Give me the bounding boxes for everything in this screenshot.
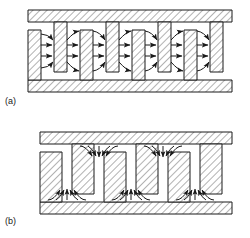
panel-a-top-finger bbox=[210, 22, 223, 72]
panel-a-bottom-finger bbox=[28, 30, 41, 80]
panel-a-svg bbox=[0, 0, 250, 120]
panel-a-bottom-bar bbox=[28, 80, 232, 92]
panel-b-electrode-body bbox=[40, 132, 232, 214]
panel-a-electrode-body bbox=[28, 10, 232, 92]
field-arrow-curved bbox=[80, 146, 92, 156]
field-arrow-curved bbox=[166, 146, 174, 156]
field-arrow-curved bbox=[112, 190, 124, 200]
field-arrow-curved bbox=[120, 190, 128, 200]
figure-container: (a) bbox=[0, 0, 250, 238]
panel-a-bottom-finger bbox=[184, 30, 197, 80]
field-arrow-curved bbox=[202, 190, 214, 200]
panel-a-bottom-finger bbox=[80, 30, 93, 80]
panel-a-top-finger bbox=[54, 22, 67, 72]
field-line-curved bbox=[145, 62, 157, 71]
field-arrow-curved bbox=[176, 190, 188, 200]
panel-a-label: (a) bbox=[5, 96, 16, 106]
panel-a-top-bar bbox=[28, 10, 232, 22]
field-arrow-curved bbox=[198, 190, 206, 200]
arrow-fan-bottom bbox=[112, 189, 150, 200]
panel-b-bottom-bar bbox=[40, 202, 232, 214]
panel-b-top-bar bbox=[40, 132, 232, 144]
arrow-fan-top bbox=[144, 146, 182, 157]
field-line-curved bbox=[93, 31, 105, 40]
field-line-curved bbox=[93, 62, 105, 71]
field-arrow-curved bbox=[152, 146, 160, 156]
field-arrow-curved bbox=[184, 190, 192, 200]
field-arrow-curved bbox=[102, 146, 110, 156]
panel-b-column bbox=[104, 152, 126, 202]
field-arrow-curved bbox=[48, 190, 60, 200]
arrow-fan-top bbox=[80, 146, 118, 157]
panel-b-column bbox=[40, 152, 62, 202]
field-line-curved bbox=[119, 31, 131, 40]
arrow-fan-bottom bbox=[176, 189, 214, 200]
field-arrow-curved bbox=[70, 190, 78, 200]
panel-b-field-arrows bbox=[48, 146, 214, 200]
arrow-fan-bottom bbox=[48, 189, 86, 200]
panel-b-column bbox=[168, 152, 190, 202]
panel-a-diagram bbox=[0, 0, 250, 120]
field-line-curved bbox=[67, 31, 79, 40]
field-line-curved bbox=[41, 62, 53, 68]
field-arrow-curved bbox=[134, 190, 142, 200]
field-line-curved bbox=[119, 62, 131, 71]
field-line-curved bbox=[171, 62, 183, 71]
panel-b-column bbox=[200, 144, 222, 194]
panel-b-column bbox=[72, 144, 94, 194]
field-line-curved bbox=[197, 62, 209, 71]
field-line-curved bbox=[67, 62, 79, 71]
field-arrow-curved bbox=[56, 190, 64, 200]
field-arrow-curved bbox=[88, 146, 96, 156]
panel-a-top-finger bbox=[106, 22, 119, 72]
field-arrow-curved bbox=[138, 190, 150, 200]
field-line-curved bbox=[171, 31, 183, 40]
field-arrow-curved bbox=[106, 146, 118, 156]
panel-a-top-finger bbox=[158, 22, 171, 72]
field-arrow-curved bbox=[170, 146, 182, 156]
field-line-curved bbox=[41, 34, 53, 40]
field-arrow-curved bbox=[74, 190, 86, 200]
panel-a-bottom-finger bbox=[132, 30, 145, 80]
panel-b-column bbox=[136, 144, 158, 194]
field-arrow-curved bbox=[144, 146, 156, 156]
field-line-curved bbox=[197, 31, 209, 40]
field-line-curved bbox=[145, 31, 157, 40]
panel-b-label: (b) bbox=[5, 216, 16, 226]
